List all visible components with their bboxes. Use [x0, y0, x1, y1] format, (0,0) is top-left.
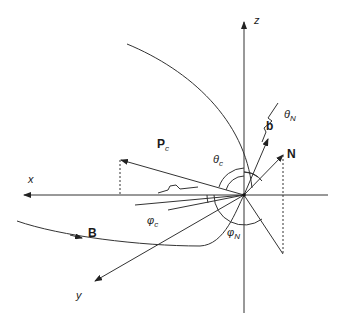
- origin-point: [242, 193, 246, 197]
- phi-n-label: φN: [227, 226, 240, 241]
- theta-n-label: θN: [284, 108, 296, 123]
- coordinate-diagram: z x y Pc b N B θc θN φc φN: [0, 0, 344, 323]
- b-field-curve: [17, 195, 244, 246]
- pc-vector: [121, 160, 244, 195]
- x-axis-label: x: [27, 173, 34, 185]
- pc-azimuth-line: [135, 195, 244, 205]
- b-field-label: B: [88, 226, 97, 240]
- b-vector: [244, 139, 268, 195]
- z-axis-label: z: [253, 14, 260, 26]
- y-axis: [95, 195, 244, 281]
- theta-c-label: θc: [213, 153, 223, 168]
- theta-c-arc: [226, 176, 244, 190]
- phi-c-label: φc: [147, 214, 158, 229]
- n-vector-label: N: [287, 147, 296, 161]
- y-axis-label: y: [75, 289, 83, 301]
- theta-c-arc-outer: [219, 168, 244, 187]
- pc-label: Pc: [157, 137, 169, 153]
- phi-c-leader: [158, 185, 198, 193]
- trajectory-curve: [127, 44, 252, 188]
- phi-c-projection-line: [168, 195, 244, 210]
- b-vector-label: b: [266, 119, 273, 133]
